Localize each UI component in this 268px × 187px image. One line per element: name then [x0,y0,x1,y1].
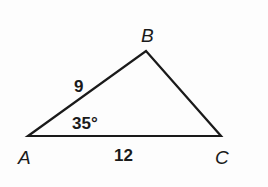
side-ab-length: 9 [74,77,83,96]
side-ac-length: 12 [114,146,133,165]
triangle-diagram: A B C 9 35° 12 [0,0,268,187]
vertex-label-b: B [141,25,154,46]
angle-a-measure: 35° [72,114,98,133]
triangle-abc [28,51,221,136]
triangle-svg: A B C 9 35° 12 [0,0,268,187]
vertex-label-a: A [17,147,31,168]
vertex-label-c: C [215,147,229,168]
